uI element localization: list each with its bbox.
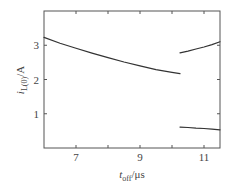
x-axis-label-sub: off (122, 174, 132, 183)
y-axis-label: iL(0)/A (14, 66, 29, 94)
series-layer (44, 37, 220, 129)
line-chart: 7911123 toff/μs iL(0)/A (0, 0, 233, 191)
series-line-branch-3 (180, 127, 220, 130)
y-axis-label-sub: L(0) (20, 77, 29, 92)
series-line-branch-2 (180, 42, 220, 53)
x-tick-label: 9 (137, 151, 143, 163)
y-tick-label: 2 (34, 74, 40, 86)
y-axis-label-unit: /A (14, 66, 26, 77)
x-axis-label: toff/μs (119, 168, 144, 183)
x-tick-label: 7 (73, 151, 79, 163)
ticks-layer: 7911123 (34, 11, 221, 163)
y-tick-label: 1 (34, 108, 40, 120)
x-axis-label-unit: /μs (132, 168, 145, 180)
x-tick-label: 11 (199, 151, 210, 163)
series-line-branch-1 (44, 37, 180, 73)
y-tick-label: 3 (34, 39, 40, 51)
